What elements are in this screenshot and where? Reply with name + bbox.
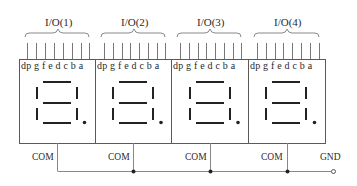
seven-segment-digits [36, 81, 316, 124]
gnd-label: GND [320, 152, 341, 162]
module-2-pins [105, 43, 166, 59]
display-module-3-box [172, 60, 249, 144]
digit-3 [189, 81, 240, 124]
pin-lines [28, 43, 320, 59]
module-3-pins [181, 43, 242, 59]
digit-2 [112, 81, 163, 124]
display-module-2-box [96, 60, 172, 144]
brace-2 [101, 29, 165, 37]
io-label-4: I/O(4) [274, 17, 302, 27]
module-1-pins [28, 43, 90, 59]
digit-1 [36, 81, 86, 124]
io-label-1: I/O(1) [45, 17, 73, 27]
display-module-1-box [20, 60, 96, 144]
gnd-terminal-icon [332, 170, 336, 174]
io-label-2: I/O(2) [121, 17, 149, 27]
brace-1 [25, 29, 89, 37]
display-module-4-box [249, 60, 326, 144]
digit-4 [265, 81, 316, 124]
com-label-4: COM [261, 152, 283, 162]
com-label-3: COM [185, 152, 207, 162]
pin-labels-3: dp g f e d c b a [173, 61, 235, 71]
pin-labels-4: dp g f e d c b a [250, 61, 312, 71]
com-label-1: COM [32, 152, 54, 162]
brace-4 [254, 29, 319, 37]
com-label-2: COM [108, 152, 130, 162]
pin-labels-2: dp g f e d c b a [97, 61, 159, 71]
brace-3 [177, 29, 241, 37]
module-4-pins [258, 43, 320, 59]
io-label-3: I/O(3) [197, 17, 225, 27]
pin-labels-1: dp g f e d c b a [21, 61, 83, 71]
